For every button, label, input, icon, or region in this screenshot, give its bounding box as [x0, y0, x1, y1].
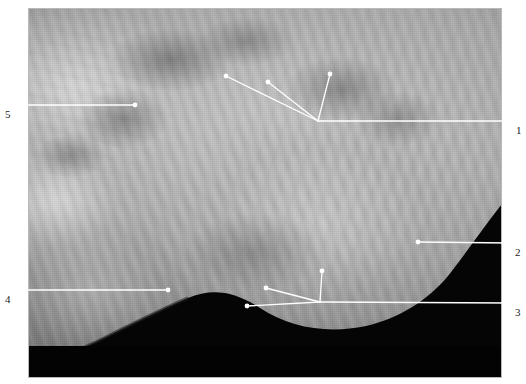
label-callout-4: 4 [5, 294, 11, 305]
anatomical-photograph [28, 8, 502, 378]
figure-root: 1 2 3 4 5 [0, 0, 526, 384]
photo-plate-border [28, 8, 502, 378]
label-callout-2: 2 [515, 247, 521, 258]
label-callout-3: 3 [515, 307, 521, 318]
label-callout-5: 5 [5, 109, 11, 120]
label-callout-1: 1 [516, 125, 522, 136]
